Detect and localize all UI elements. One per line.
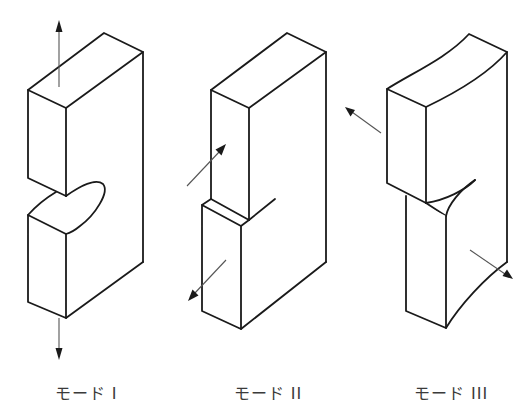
mode-3-label: モード III: [414, 380, 488, 404]
mode-2-label: モード II: [234, 380, 303, 404]
mode-3-specimen: [345, 34, 513, 328]
mode-1-label: モード I: [55, 380, 118, 404]
mode-1-arrow-down: [56, 318, 63, 360]
mode-3-arrow-up-left: [345, 107, 381, 133]
mode-1-lower-block: [28, 215, 143, 318]
fracture-modes-diagram: [0, 0, 524, 420]
mode-1-upper-block: [28, 33, 143, 262]
mode-3-upper-block: [387, 34, 507, 262]
mode-2-specimen: [187, 33, 326, 329]
mode-1-specimen: [28, 20, 143, 360]
